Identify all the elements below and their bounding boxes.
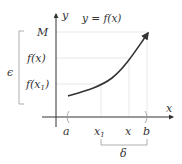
epsilon-bracket [19,31,24,104]
label-x: x [125,125,132,138]
label-M: M [36,26,49,39]
continuity-diagram: y y = f(x) x M f(x) f(x1) ϵ a x1 x b δ [0,0,182,164]
label-f-x1: f(x1) [25,78,49,92]
delta-bracket [101,139,147,145]
label-a: a [63,125,70,138]
epsilon-label: ϵ [7,66,13,79]
label-b: b [143,125,150,138]
x-axis-label: x [166,102,173,115]
guide-lines [56,32,147,117]
label-x1: x1 [94,125,105,139]
function-curve [68,33,148,96]
y-axis-label: y [61,9,69,22]
delta-label: δ [120,147,127,160]
function-title: y = f(x) [81,12,121,24]
label-f-x: f(x) [26,52,46,65]
